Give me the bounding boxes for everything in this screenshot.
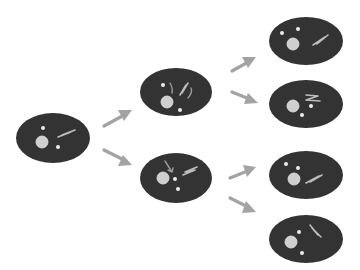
star-icon — [300, 113, 304, 117]
division-arrow — [232, 92, 258, 104]
star-icon — [176, 187, 180, 191]
cell-g3-4 — [269, 215, 343, 263]
division-arrow — [230, 165, 256, 178]
star-icon — [309, 104, 313, 108]
nucleus-icon — [287, 38, 299, 50]
cell-g2-bottom — [140, 153, 212, 203]
nucleus-icon — [287, 100, 299, 112]
division-arrow — [104, 150, 132, 166]
cell-g3-3 — [269, 151, 343, 199]
cell-membrane — [16, 113, 90, 163]
cell-g2-top — [140, 68, 212, 116]
cell-membrane — [269, 17, 343, 65]
cell-membrane — [269, 80, 343, 128]
division-arrow — [232, 57, 256, 71]
nucleus-icon — [36, 136, 48, 148]
cell-g3-2 — [269, 80, 343, 128]
star-icon — [178, 108, 182, 112]
star-icon — [296, 27, 300, 31]
nucleus-icon — [288, 173, 300, 185]
star-icon — [41, 126, 45, 130]
nucleus-icon — [157, 172, 169, 184]
star-icon — [280, 31, 284, 35]
star-icon — [300, 251, 304, 255]
star-icon — [173, 177, 177, 181]
division-arrow — [230, 198, 256, 213]
star-icon — [284, 162, 288, 166]
nucleus-icon — [161, 96, 173, 108]
arrow-head-icon — [244, 93, 258, 104]
star-icon — [296, 166, 300, 170]
star-icon — [56, 145, 60, 149]
star-icon — [297, 230, 301, 234]
cell-g1 — [16, 113, 90, 163]
nucleus-icon — [285, 236, 297, 248]
cell-membrane — [140, 68, 212, 116]
division-arrow — [104, 110, 132, 126]
star-icon — [161, 83, 165, 87]
cell-division-diagram: Cell lineage: one cell dividing into two… — [0, 0, 360, 270]
cell-membrane — [269, 215, 343, 263]
cell-membrane — [269, 151, 343, 199]
arrow-head-icon — [242, 201, 256, 213]
cell-g3-1 — [269, 17, 343, 65]
